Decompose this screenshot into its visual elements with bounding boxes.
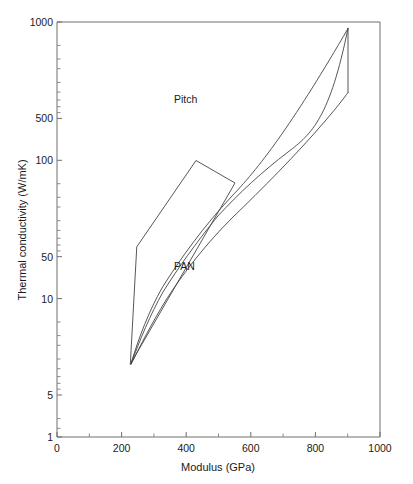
x-axis-ticks (57, 432, 380, 437)
pitch-lower-curve (131, 93, 348, 365)
pitch-envelope (131, 28, 348, 364)
x-tick-label: 400 (177, 442, 195, 454)
y-tick-label: 50 (41, 251, 53, 263)
y-tick-label: 5 (47, 389, 53, 401)
x-tick-label: 600 (242, 442, 260, 454)
pitch-upper-curve-main (131, 29, 348, 364)
x-axis-title: Modulus (GPa) (181, 461, 255, 473)
y-axis-major-ticks (57, 22, 62, 437)
chart-figure: 1000 500 100 50 10 5 1 0 200 400 600 800… (0, 0, 413, 484)
x-tick-label: 0 (54, 442, 60, 454)
y-tick-label: 10 (41, 293, 53, 305)
x-tick-label: 200 (113, 442, 131, 454)
x-axis-tick-labels: 0 200 400 600 800 1000 (54, 442, 392, 454)
y-tick-label: 1000 (30, 16, 54, 28)
thermal-conductivity-vs-modulus-chart: 1000 500 100 50 10 5 1 0 200 400 600 800… (0, 0, 413, 484)
y-axis-tick-labels: 1000 500 100 50 10 5 1 (30, 16, 54, 443)
x-tick-label: 1000 (368, 442, 392, 454)
y-tick-label: 1 (47, 431, 53, 443)
x-tick-label: 800 (307, 442, 325, 454)
y-tick-label: 500 (35, 112, 53, 124)
plot-frame (57, 22, 380, 437)
pitch-label: Pitch (174, 93, 198, 105)
y-tick-label: 100 (35, 154, 53, 166)
y-axis-title: Thermal conductivity (W/mK) (16, 159, 28, 300)
y-axis-minor-ticks (57, 45, 61, 428)
pitch-upper-curve (131, 28, 348, 363)
pan-label: PAN (174, 260, 195, 272)
